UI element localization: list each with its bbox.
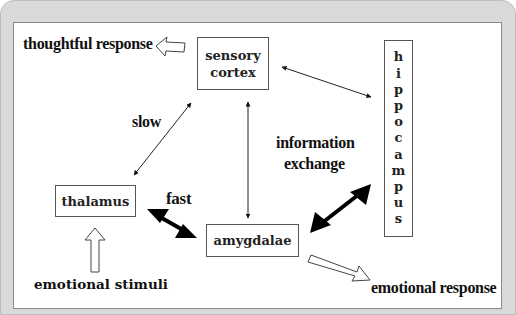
information-exchange-arrow	[310, 184, 371, 233]
hippocampus-letter: u	[394, 195, 403, 211]
hippocampus-letter: h	[394, 49, 403, 65]
hippocampus-letter: a	[394, 147, 402, 163]
thalamus-node: thalamus	[55, 185, 136, 217]
cortex-hippocampus-arrow	[282, 67, 371, 97]
hippocampus-letter: s	[395, 211, 402, 227]
hippocampus-letter: p	[394, 98, 403, 114]
fast-arrow	[147, 209, 197, 238]
sensory-cortex-label: sensory cortex	[203, 47, 263, 81]
amygdalae-node: amygdalae	[206, 224, 299, 257]
hippocampus-letter: m	[392, 163, 406, 179]
amygdalae-label: amygdalae	[214, 232, 292, 249]
exchange-label: exchange	[284, 155, 345, 173]
information-label: information	[276, 134, 354, 152]
emotional-stimuli-label: emotional stimuli	[34, 276, 168, 292]
hippocampus-letter: o	[394, 114, 403, 130]
hippocampus-letter: p	[394, 82, 403, 98]
thoughtful-response-label: thoughtful response	[23, 35, 153, 53]
fast-label: fast	[166, 189, 191, 209]
hippocampus-node: h i p p o c a m p u s	[384, 40, 413, 237]
emotional-response-arrow	[308, 255, 370, 281]
hippocampus-letter: c	[395, 130, 403, 146]
hippocampus-letter: i	[396, 66, 401, 82]
sensory-cortex-node: sensory cortex	[197, 37, 269, 90]
emotional-stimuli-arrow	[85, 228, 105, 272]
thoughtful-response-arrow	[156, 37, 185, 56]
emotional-response-label: emotional response	[371, 279, 496, 297]
slow-label: slow	[132, 113, 161, 131]
thalamus-label: thalamus	[62, 193, 130, 210]
hippocampus-letter: p	[394, 179, 403, 195]
